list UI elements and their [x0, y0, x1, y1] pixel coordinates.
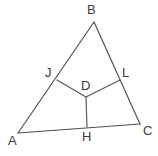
vertex-label-j: J — [45, 66, 52, 79]
segment-bc — [94, 22, 140, 124]
vertex-label-b: B — [87, 3, 96, 16]
vertex-label-h: H — [82, 130, 91, 143]
vertex-label-a: A — [8, 134, 17, 147]
segment-dh — [86, 97, 87, 127]
segment-ac — [18, 124, 140, 133]
figure-canvas — [0, 0, 158, 156]
vertex-label-l: L — [122, 66, 129, 79]
segment-dl — [86, 80, 120, 97]
vertex-label-c: C — [143, 124, 152, 137]
vertex-label-d: D — [81, 79, 90, 92]
geometry-figure: A B C D H J L — [0, 0, 158, 156]
